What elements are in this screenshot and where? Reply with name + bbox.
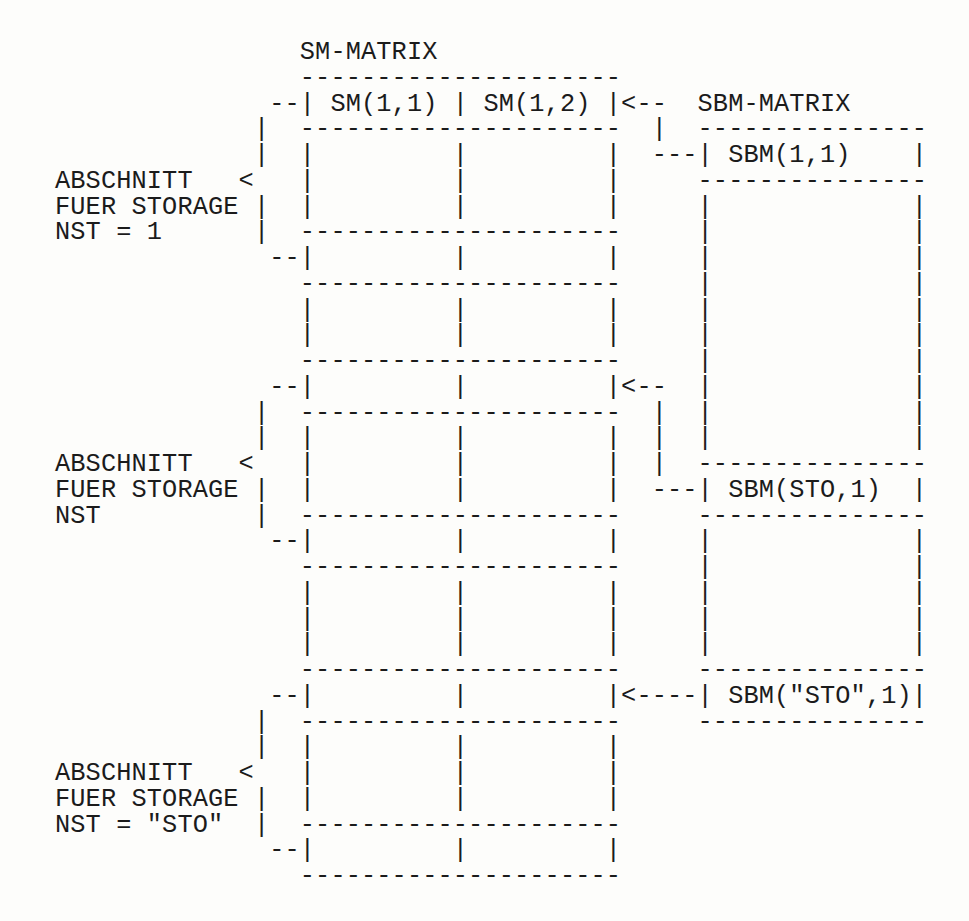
diagram-row: | | | | | | | [55, 426, 927, 452]
diagram-row: | | | | [55, 735, 927, 761]
diagram-row: --| | |<-- | | [55, 375, 927, 401]
diagram-row: | --------------------- --------------- [55, 710, 927, 736]
storage-matrix-diagram: SM-MATRIX --------------------- --| SM(1… [55, 40, 927, 890]
diagram-row: FUER STORAGE | | | | | | [55, 195, 927, 221]
diagram-row: | | | | | [55, 323, 927, 349]
diagram-row: SM-MATRIX [55, 40, 927, 66]
diagram-row: --------------------- --------------- [55, 658, 927, 684]
diagram-row: --------------------- | | [55, 272, 927, 298]
diagram-row: NST = "STO" | --------------------- [55, 813, 927, 839]
diagram-row: | | | | | [55, 298, 927, 324]
diagram-row: --| SM(1,1) | SM(1,2) |<-- SBM-MATRIX [55, 92, 927, 118]
diagram-row: ABSCHNITT < | | | | --------------- [55, 452, 927, 478]
diagram-row: | | | | | [55, 632, 927, 658]
diagram-row: | | | | | [55, 581, 927, 607]
diagram-row: FUER STORAGE | | | | ---| SBM(STO,1) | [55, 478, 927, 504]
diagram-row: | | | | | [55, 607, 927, 633]
diagram-row: FUER STORAGE | | | | [55, 787, 927, 813]
diagram-row: NST = 1 | --------------------- | | [55, 220, 927, 246]
diagram-row: | | | | ---| SBM(1,1) | [55, 143, 927, 169]
diagram-row: --| | | | | [55, 246, 927, 272]
diagram-row: --------------------- [55, 66, 927, 92]
diagram-row: | --------------------- | --------------… [55, 117, 927, 143]
diagram-row: --------------------- | | [55, 349, 927, 375]
diagram-row: NST | --------------------- ------------… [55, 504, 927, 530]
diagram-row: ABSCHNITT < | | | --------------- [55, 169, 927, 195]
diagram-row: --------------------- [55, 864, 927, 890]
diagram-row: ABSCHNITT < | | | [55, 761, 927, 787]
diagram-row: --| | | [55, 838, 927, 864]
diagram-row: --| | | | | [55, 529, 927, 555]
diagram-row: --| | |<----| SBM("STO",1)| [55, 684, 927, 710]
diagram-row: --------------------- | | [55, 555, 927, 581]
diagram-row: | --------------------- | | | [55, 401, 927, 427]
